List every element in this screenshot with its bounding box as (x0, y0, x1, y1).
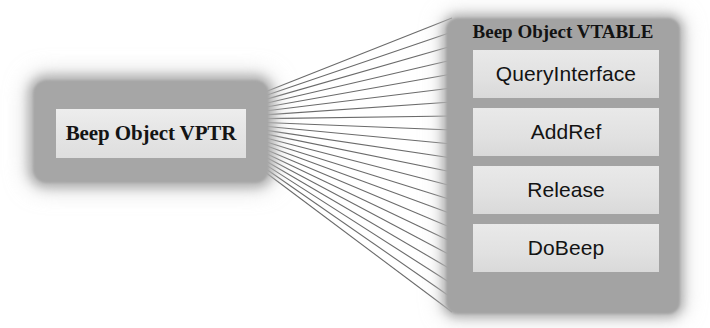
vtable-slot-label: Release (527, 178, 605, 202)
vtable-slot: QueryInterface (473, 50, 659, 98)
connector-line (265, 149, 452, 228)
vptr-vtable-diagram: Beep Object VPTR Beep Object VTABLE Quer… (0, 0, 710, 328)
connector-line (265, 60, 452, 103)
vptr-label: Beep Object VPTR (66, 121, 237, 146)
connector-line (265, 157, 452, 256)
vtable-slot-label: AddRef (531, 120, 602, 144)
connector-line (265, 116, 452, 119)
connector-line (265, 102, 452, 115)
connector-line (265, 138, 452, 186)
connector-line (265, 32, 452, 96)
vtable-title: Beep Object VTABLE (446, 21, 680, 43)
connector-line (265, 18, 452, 92)
vtable-slot: Release (473, 166, 659, 214)
vtable-node: Beep Object VTABLE QueryInterfaceAddRefR… (446, 18, 680, 314)
vtable-slot-label: QueryInterface (496, 62, 636, 86)
connector-line (265, 164, 452, 284)
vtable-slot-label: DoBeep (528, 236, 605, 260)
connector-line (265, 161, 452, 270)
connector-line (265, 172, 452, 312)
vtable-slot: DoBeep (473, 224, 659, 272)
connector-line (265, 130, 452, 158)
connector-line (265, 145, 452, 214)
vptr-node: Beep Object VPTR (33, 80, 269, 183)
vtable-slot-list: QueryInterfaceAddRefReleaseDoBeep (473, 50, 659, 272)
connector-line (265, 142, 452, 200)
connector-line (265, 168, 452, 298)
vtable-slot: AddRef (473, 108, 659, 156)
vptr-inner-box: Beep Object VPTR (56, 109, 246, 158)
connector-line (265, 74, 452, 107)
